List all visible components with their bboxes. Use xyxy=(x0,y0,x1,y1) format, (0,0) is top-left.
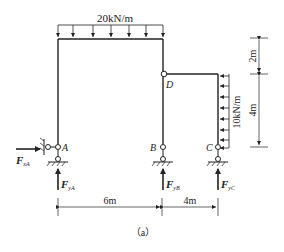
reaction-fyc-label: FyC xyxy=(220,178,236,191)
dim-4m-horizontal-label: 4m xyxy=(184,195,197,206)
node-b-label: B xyxy=(150,142,156,153)
top-load-label: 20kN/m xyxy=(97,12,134,24)
figure-caption: （a） xyxy=(131,227,155,238)
top-distributed-load xyxy=(58,25,163,37)
dim-4m-vertical-label: 4m xyxy=(247,103,258,116)
hinge-d xyxy=(161,71,167,77)
structure-svg: 20kN/m D 10kN/m xyxy=(0,0,284,252)
reaction-arrows xyxy=(16,149,218,190)
node-a-label: A xyxy=(61,142,69,153)
reaction-fya-label: FyA xyxy=(60,178,75,191)
node-d-label: D xyxy=(165,79,174,90)
reaction-fyb-label: FyB xyxy=(165,178,180,191)
side-load-label: 10kN/m xyxy=(231,95,242,128)
node-c-label: C xyxy=(206,142,213,153)
dim-2m-label: 2m xyxy=(247,49,258,62)
dim-6m-label: 6m xyxy=(104,195,117,206)
side-distributed-load xyxy=(220,74,229,148)
reaction-fxa-label: FxA xyxy=(15,154,30,167)
frame-diagram: 20kN/m D 10kN/m xyxy=(0,0,284,252)
frame-members xyxy=(58,39,218,144)
